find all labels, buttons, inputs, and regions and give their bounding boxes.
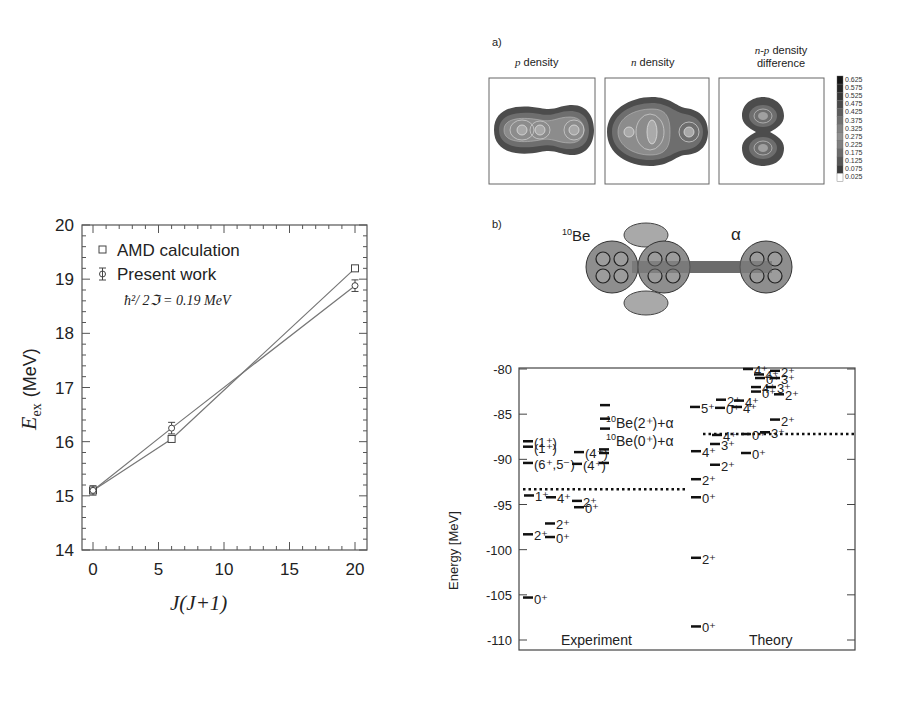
spin-parity-label: 0⁺ [752, 428, 766, 443]
x-tick-label: 10 [215, 560, 234, 579]
colorbar-tick-label: 0.425 [845, 108, 863, 115]
nucleon [596, 252, 610, 266]
spin-parity-label: 4⁺ [702, 445, 716, 460]
spin-parity-label: (6⁺,5⁻) [534, 457, 575, 472]
colorbar-tick-label: 0.475 [845, 100, 863, 107]
panel-a-label: a) [492, 36, 502, 48]
panel-b-label: b) [492, 218, 502, 230]
colorbar-tick-label: 0.375 [845, 117, 863, 124]
svg-text:Eex(MeV): Eex(MeV) [16, 348, 44, 431]
spin-parity-label: 2⁺ [702, 552, 716, 567]
colorbar-tick-label: 0.325 [845, 125, 863, 132]
spin-parity-label: 5⁺ [701, 401, 715, 416]
y-tick-labels: -80-85-90-95-100-105-110 [486, 362, 512, 648]
np-difference-title: n-p density difference [742, 44, 820, 70]
x-tick-label: 20 [346, 560, 365, 579]
y-tick-label: 16 [55, 433, 74, 452]
threshold-label-0plus: 10Be(0⁺)+α [606, 432, 674, 449]
cluster-schematic [580, 215, 820, 320]
x-tick-label: 0 [88, 560, 97, 579]
alpha-cluster [586, 241, 638, 293]
column-label-experiment: Experiment [561, 632, 632, 648]
spin-parity-label: 4⁺ [723, 429, 737, 444]
plot-frame [519, 368, 855, 650]
y-tick-label: 15 [55, 487, 74, 506]
y-tick-labels: 14151617181920 [55, 216, 74, 560]
x-tick-labels: 05101520 [88, 560, 364, 579]
spin-parity-label: 2⁺ [702, 473, 716, 488]
y-tick-label: -80 [493, 362, 512, 377]
legend-amd: AMD calculation [117, 241, 240, 260]
colorbar-tick-label: 0.625 [845, 76, 863, 83]
colorbar-tick-label: 0.025 [845, 173, 863, 180]
y-tick-label: -100 [486, 543, 512, 558]
colorbar-tick-label: 0.125 [845, 157, 863, 164]
p-density-title: p density [515, 56, 558, 68]
y-tick-label: -95 [493, 498, 512, 513]
rotational-band-chart: 14151617181920 05101520 AMD calculation … [0, 0, 440, 702]
n-density-map [605, 78, 709, 184]
y-tick-label: -105 [486, 588, 512, 603]
column-label-theory: Theory [749, 632, 793, 648]
threshold-label-2plus: 10Be(2⁺)+α [606, 414, 674, 431]
spin-parity-label: 2⁺ [556, 517, 570, 532]
valence-neutron-orbital-bottom [624, 291, 668, 315]
spin-parity-label: 4⁺ [743, 401, 757, 416]
colorbar: 0.6250.5750.5250.4750.4250.3750.3250.275… [837, 76, 863, 181]
x-tick-label: 5 [154, 560, 163, 579]
spin-parity-label: 0⁺ [585, 501, 599, 516]
y-axis-label: Eex(MeV) [16, 348, 44, 431]
y-tick-label: 17 [55, 379, 74, 398]
spin-parity-label: 0⁺ [534, 592, 548, 607]
colorbar-tick-label: 0.225 [845, 141, 863, 148]
nucleon [614, 269, 628, 283]
colorbar-tick-label: 0.175 [845, 149, 863, 156]
np-difference-map [719, 78, 824, 184]
spin-parity-label: 2⁺ [785, 388, 799, 403]
nucleon [596, 269, 610, 283]
density-maps: 0.6250.5750.5250.4750.4250.3750.3250.275… [480, 70, 901, 190]
spin-parity-label: 2⁺ [781, 414, 795, 429]
nucleon [614, 252, 628, 266]
spin-parity-label: 0⁺ [766, 372, 780, 387]
y-tick-label: -85 [493, 407, 512, 422]
y-tick-label: -90 [493, 452, 512, 467]
colorbar-tick-label: 0.575 [845, 84, 863, 91]
spin-parity-label: 0⁺ [702, 491, 716, 506]
energy-level-chart: -80-85-90-95-100-105-110 Energy [MeV] Ex… [440, 340, 901, 702]
spin-parity-label: 0⁺ [556, 531, 570, 546]
spin-parity-label: (1⁺) [534, 435, 557, 450]
alpha-clusters [586, 241, 792, 293]
spin-parity-label: 3⁺ [781, 372, 795, 387]
legend-present-work: Present work [117, 265, 217, 284]
y-axis-label: Energy [MeV] [446, 511, 461, 590]
circle-marker-icon [169, 425, 175, 431]
p-density-map [489, 78, 595, 184]
square-marker-icon [168, 435, 175, 442]
circle-marker-icon [352, 283, 358, 289]
colorbar-tick-label: 0.075 [845, 165, 863, 172]
spin-parity-label: 0⁺ [752, 447, 766, 462]
spin-parity-label: 4⁺ [557, 491, 571, 506]
square-marker-icon [352, 265, 359, 272]
colorbar-tick-label: 0.525 [845, 92, 863, 99]
colorbar-tick-label: 0.275 [845, 133, 863, 140]
y-tick-label: -110 [487, 633, 512, 648]
y-tick-label: 18 [55, 324, 74, 343]
x-tick-label: 15 [280, 560, 299, 579]
circle-marker-icon [90, 487, 96, 493]
n-density-title: n density [631, 56, 674, 68]
svg-text:Energy [MeV]: Energy [MeV] [446, 511, 461, 590]
y-tick-label: 14 [55, 541, 74, 560]
y-tick-label: 20 [55, 216, 74, 235]
spin-parity-label: 0⁺ [702, 620, 716, 635]
x-axis-label: J(J+1) [170, 591, 227, 615]
moment-of-inertia-annotation: ħ²/ 2ℑ = 0.19 MeV [124, 293, 232, 308]
spin-parity-label: 2⁺ [721, 459, 735, 474]
y-tick-label: 19 [55, 270, 74, 289]
